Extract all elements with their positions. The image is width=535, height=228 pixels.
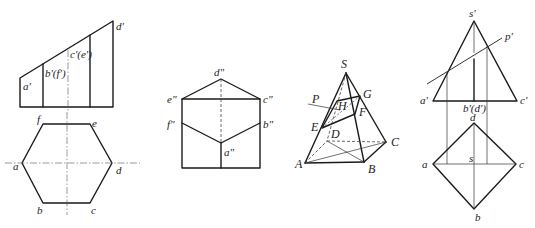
label-c: c	[91, 204, 96, 216]
label-b-dprime: b"	[263, 118, 274, 130]
label-d: d	[116, 164, 122, 176]
diagonal-DB	[327, 141, 364, 162]
front-view-outline	[20, 21, 113, 107]
fig4-top-view: d a c s b	[422, 111, 524, 223]
label-a-prime: a'	[23, 80, 32, 92]
fig1-top-view: a f e d b c	[5, 112, 140, 216]
label-a-prime-4: a'	[420, 94, 429, 106]
edge-AD-hidden	[305, 141, 327, 163]
label-d-prime: d'	[116, 20, 125, 32]
label-s-prime: s'	[469, 7, 476, 19]
label-b-f-prime: b'(f')	[45, 67, 66, 80]
label-e-dprime: e"	[167, 93, 177, 105]
label-d-dprime: d"	[214, 66, 225, 78]
label-p-prime: p'	[504, 30, 514, 42]
label-a-4: a	[422, 158, 428, 170]
label-e: e	[92, 117, 97, 129]
technical-drawing: a' b'(f') c'(e') d' a f e d b c d" e" c"…	[0, 0, 535, 228]
label-P: P	[311, 92, 320, 106]
top-square	[433, 123, 516, 209]
label-a-dprime: a"	[224, 146, 235, 158]
label-D: D	[330, 127, 340, 141]
label-c-dprime: c"	[263, 93, 273, 105]
fig1-front-view: a' b'(f') c'(e') d'	[20, 20, 125, 112]
label-A: A	[294, 157, 303, 171]
label-c-e-prime: c'(e')	[70, 48, 92, 61]
fig2-side-view: d" e" c" f" b" a"	[167, 66, 274, 168]
label-H: H	[337, 99, 348, 113]
label-d-4: d	[470, 111, 476, 123]
fig3-pyramid: S A B C D E F G H P	[294, 57, 400, 176]
label-b-4: b	[475, 211, 481, 223]
label-b: b	[37, 204, 43, 216]
plane-p-trace	[427, 38, 502, 84]
label-a: a	[13, 160, 19, 172]
label-S: S	[341, 57, 347, 71]
label-E: E	[310, 120, 319, 134]
label-f: f	[37, 113, 42, 125]
label-F: F	[358, 105, 367, 119]
label-G: G	[363, 87, 372, 101]
label-s-4: s	[469, 152, 473, 164]
label-f-dprime: f"	[167, 118, 175, 130]
edge-AB	[305, 162, 364, 163]
label-B: B	[368, 162, 376, 176]
edge-SA	[305, 73, 346, 163]
label-C: C	[391, 135, 400, 149]
label-c-prime-4: c'	[520, 94, 528, 106]
edge-DC-hidden	[327, 141, 386, 142]
label-c-4: c	[519, 158, 524, 170]
